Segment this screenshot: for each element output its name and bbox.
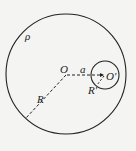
- big-radius-line: [26, 75, 66, 118]
- small-radius-line: [97, 76, 104, 85]
- sphere-cavity-diagram: ρ O a O′ R R′: [0, 0, 136, 151]
- cavity-center-label: O′: [106, 70, 117, 82]
- small-radius-label: R′: [87, 84, 98, 96]
- density-label: ρ: [24, 30, 30, 42]
- offset-label: a: [80, 63, 86, 75]
- big-radius-label: R: [36, 93, 44, 105]
- center-label: O: [60, 63, 68, 75]
